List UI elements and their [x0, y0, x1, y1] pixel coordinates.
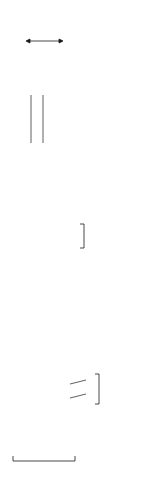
alpha-beta-leaders: [70, 380, 86, 398]
width-dimension: [13, 456, 75, 461]
diameter-arrow: [26, 39, 63, 43]
tubulin-bracket: [95, 374, 99, 404]
microtubule-diagram: [0, 0, 158, 489]
protofilament-leader-lines: [31, 95, 43, 143]
period-bracket: [80, 224, 84, 248]
